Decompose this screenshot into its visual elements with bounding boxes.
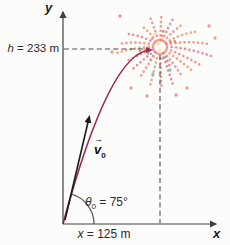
firework-spark-dot <box>110 50 113 53</box>
firework-spark-dot <box>153 32 156 35</box>
height-label: h = 233 m <box>1 42 59 55</box>
velocity-vector-symbol: →v <box>94 143 101 157</box>
figure-projectile-fireworks: y x h = 233 m x = 125 m θ0 = 75° →v0 <box>0 0 230 245</box>
vector-arrow-accent: → <box>94 135 102 145</box>
velocity-label: →v0 <box>94 143 106 160</box>
firework-spark-dot <box>161 36 164 39</box>
firework-spark-dot <box>174 93 177 96</box>
firework-streak <box>119 43 154 45</box>
velocity-subscript: 0 <box>101 151 105 160</box>
range-value: = 125 m <box>83 227 130 241</box>
firework-spark-dot <box>185 86 188 89</box>
firework-burst <box>110 14 216 97</box>
firework-spark-dot <box>156 42 159 45</box>
firework-spark-dot <box>168 68 171 71</box>
firework-spark-dot <box>161 56 164 59</box>
firework-spark-dot <box>213 36 216 39</box>
angle-value: = 75° <box>96 195 128 209</box>
firework-spark-dot <box>145 94 148 97</box>
firework-spark-dot <box>207 24 210 27</box>
range-label: x = 125 m <box>56 228 152 241</box>
y-axis-label: y <box>45 1 52 15</box>
x-axis-label: x <box>213 227 220 241</box>
firework-spark-dot <box>146 51 149 54</box>
firework-spark-dot <box>151 72 154 75</box>
firework-spark-dot <box>129 86 132 89</box>
firework-spark-dot <box>158 48 161 51</box>
firework-spark-dot <box>118 14 121 17</box>
height-value: = 233 m <box>14 42 59 54</box>
angle-label: θ0 = 75° <box>85 196 128 212</box>
firework-streak <box>167 42 207 44</box>
